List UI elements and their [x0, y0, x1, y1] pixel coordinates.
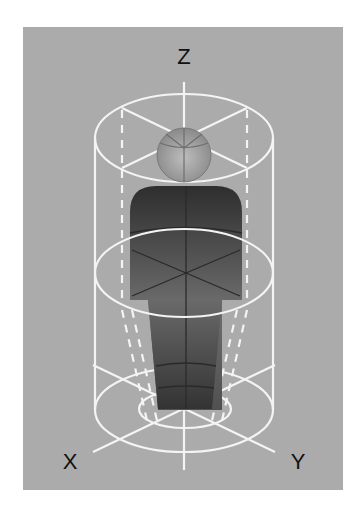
y-axis-label: Y — [291, 451, 306, 473]
body-cylinder-diagram — [0, 0, 364, 508]
z-axis-label: Z — [177, 46, 190, 68]
x-axis-label: X — [63, 451, 78, 473]
